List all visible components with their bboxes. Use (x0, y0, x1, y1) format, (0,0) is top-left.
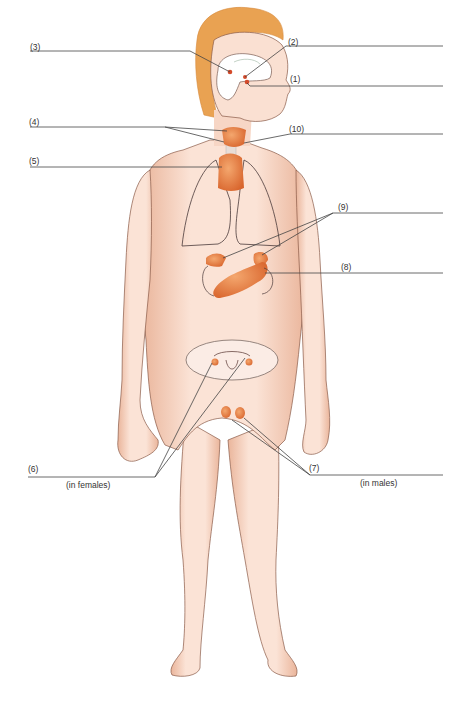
testis-right (235, 407, 245, 419)
leader-line-4a (30, 127, 227, 131)
label-7: (7) (309, 464, 319, 473)
label-5: (5) (29, 157, 39, 166)
label-7-note: (in males) (360, 479, 397, 488)
label-3: (3) (30, 43, 40, 52)
thymus-gland (218, 154, 244, 192)
ovary-left (212, 359, 219, 366)
body-figure (0, 0, 468, 718)
pituitary-gland (245, 80, 250, 85)
bleed-through-text (350, 8, 353, 23)
right-arm (296, 170, 330, 454)
label-6-note: (in females) (66, 481, 110, 490)
pelvic-inset (186, 340, 278, 380)
endocrine-diagram: (1)(2)(3)(4)(5)(6)(in females)(7)(in mal… (0, 0, 468, 718)
thyroid-gland (222, 127, 246, 147)
label-1: (1) (290, 75, 300, 84)
label-4: (4) (29, 118, 39, 127)
testis-left (221, 406, 231, 418)
left-leg (171, 420, 220, 676)
label-8: (8) (341, 263, 351, 272)
label-2: (2) (288, 38, 298, 47)
leader-line-10 (244, 134, 443, 143)
label-6: (6) (28, 465, 38, 474)
label-9: (9) (338, 203, 348, 212)
ovary-right (246, 359, 253, 366)
label-10: (10) (289, 125, 304, 134)
